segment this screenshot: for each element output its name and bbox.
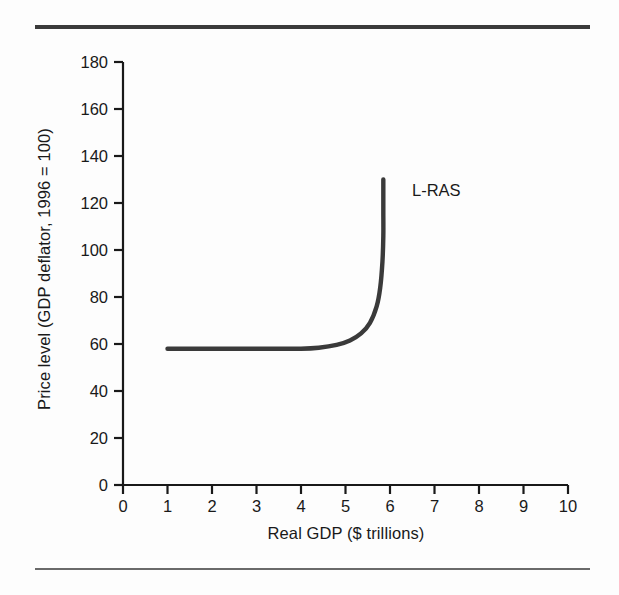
- x-tick-label: 9: [519, 497, 528, 516]
- figure-container: Price level (GDP deflator, 1996 = 100) R…: [0, 0, 619, 595]
- x-axis-title-wrapper: Real GDP ($ trillions): [123, 524, 569, 543]
- axes-group: [123, 62, 568, 485]
- y-tick-label: 100: [80, 241, 108, 260]
- lras-curve-label: L-RAS: [412, 181, 461, 200]
- x-tick-label: 0: [118, 497, 127, 516]
- y-tick-label: 180: [80, 53, 108, 72]
- y-tick-label: 60: [90, 335, 108, 354]
- y-axis-title-wrapper: Price level (GDP deflator, 1996 = 100): [31, 59, 57, 479]
- lras-curve: [168, 180, 384, 349]
- tick-marks: [114, 62, 568, 494]
- y-axis-title: Price level (GDP deflator, 1996 = 100): [35, 128, 54, 410]
- y-tick-label: 160: [80, 100, 108, 119]
- x-tick-label: 2: [207, 497, 216, 516]
- x-tick-label: 3: [252, 497, 261, 516]
- x-tick-label: 8: [474, 497, 483, 516]
- x-tick-label: 4: [296, 497, 305, 516]
- y-tick-label: 80: [90, 288, 108, 307]
- x-tick-label: 7: [430, 497, 439, 516]
- x-tick-label: 5: [341, 497, 350, 516]
- y-tick-label: 120: [80, 194, 108, 213]
- y-tick-label: 0: [99, 476, 108, 495]
- x-tick-label: 6: [385, 497, 394, 516]
- y-tick-label: 20: [90, 429, 108, 448]
- x-axis-title: Real GDP ($ trillions): [268, 524, 425, 542]
- lras-curve-path: [168, 180, 384, 349]
- x-tick-label: 1: [163, 497, 172, 516]
- x-tick-label: 10: [559, 497, 577, 516]
- y-tick-label: 40: [90, 382, 108, 401]
- y-tick-label: 140: [80, 147, 108, 166]
